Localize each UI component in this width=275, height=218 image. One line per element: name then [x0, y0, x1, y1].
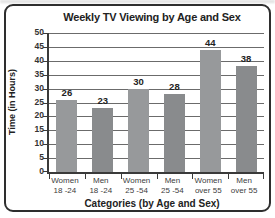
- bar-men-25-54: [164, 94, 185, 172]
- bar-women-18-24: [56, 100, 77, 172]
- x-category-line2: 18 -24: [45, 186, 85, 196]
- y-tick-mark-20: [43, 116, 47, 117]
- x-category-line1: Women: [188, 176, 228, 186]
- gridline-35: [49, 75, 264, 76]
- x-category-line1: Men: [152, 176, 192, 186]
- gridline-20: [49, 116, 264, 117]
- y-tick-label-0: 0: [24, 167, 44, 175]
- y-tick-mark-45: [43, 47, 47, 48]
- y-tick-label-35: 35: [24, 70, 44, 78]
- bar-value-23: 23: [88, 95, 118, 106]
- bar-value-44: 44: [195, 37, 225, 48]
- bar-value-28: 28: [159, 81, 189, 92]
- y-tick-mark-10: [43, 144, 47, 145]
- y-axis-tick-labels: 05101520253035404550: [24, 33, 44, 172]
- y-tick-label-15: 15: [24, 125, 44, 133]
- x-category-line2: 18 -24: [81, 186, 121, 196]
- y-tick-mark-15: [43, 130, 47, 131]
- scan-artifact-top: [0, 0, 275, 3]
- gridline-50: [49, 33, 264, 34]
- y-tick-mark-35: [43, 75, 47, 76]
- bar-value-26: 26: [52, 87, 82, 98]
- x-category-label-4: Men25 -54: [152, 176, 192, 196]
- y-tick-label-45: 45: [24, 42, 44, 50]
- chart-title: Weekly TV Viewing by Age and Sex: [38, 11, 266, 23]
- x-category-line2: over 55: [224, 186, 264, 196]
- y-tick-mark-50: [43, 33, 47, 34]
- bar-value-38: 38: [231, 53, 261, 64]
- y-tick-mark-40: [43, 61, 47, 62]
- y-tick-mark-5: [43, 158, 47, 159]
- bar-women-over55: [200, 50, 221, 172]
- x-category-line1: Women: [117, 176, 157, 186]
- x-category-label-1: Women18 -24: [45, 176, 85, 196]
- y-tick-label-50: 50: [24, 28, 44, 36]
- bar-women-25-54: [128, 89, 149, 172]
- y-tick-label-40: 40: [24, 56, 44, 64]
- y-tick-label-20: 20: [24, 111, 44, 119]
- y-tick-label-5: 5: [24, 153, 44, 161]
- gridline-45: [49, 47, 264, 48]
- x-category-line2: 25 -54: [117, 186, 157, 196]
- bar-men-over55: [236, 66, 257, 172]
- x-axis-category-labels: Women18 -24Men18 -24Women25 -54Men25 -54…: [47, 176, 262, 198]
- chart-figure: Weekly TV Viewing by Age and Sex Time (i…: [0, 0, 275, 218]
- y-tick-mark-30: [43, 89, 47, 90]
- gridline-5: [49, 158, 264, 159]
- y-tick-mark-0: [43, 171, 47, 172]
- x-axis-title: Categories (by Age and Sex): [38, 198, 266, 209]
- gridline-10: [49, 144, 264, 145]
- y-tick-mark-25: [43, 103, 47, 104]
- x-category-line2: over 55: [188, 186, 228, 196]
- gridline-15: [49, 130, 264, 131]
- gridline-25: [49, 103, 264, 104]
- x-category-label-6: Menover 55: [224, 176, 264, 196]
- plot-area: 262330284438: [47, 33, 264, 174]
- x-category-line2: 25 -54: [152, 186, 192, 196]
- x-category-line1: Men: [81, 176, 121, 186]
- y-tick-label-25: 25: [24, 98, 44, 106]
- x-category-label-3: Women25 -54: [117, 176, 157, 196]
- y-tick-label-30: 30: [24, 84, 44, 92]
- x-category-label-5: Womenover 55: [188, 176, 228, 196]
- bar-value-30: 30: [124, 76, 154, 87]
- bar-men-18-24: [92, 108, 113, 172]
- x-category-line1: Men: [224, 176, 264, 186]
- y-tick-label-10: 10: [24, 139, 44, 147]
- x-category-label-2: Men18 -24: [81, 176, 121, 196]
- x-category-line1: Women: [45, 176, 85, 186]
- y-axis-title: Time (in Hours): [7, 62, 21, 142]
